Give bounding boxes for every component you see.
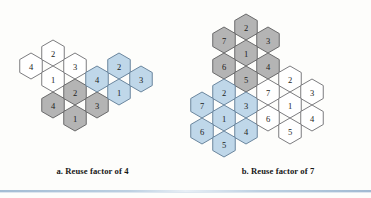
hex-cell[interactable] <box>235 118 258 144</box>
hex-cell[interactable] <box>86 92 109 118</box>
hex-cell[interactable] <box>108 53 131 79</box>
panel-reuse-4: 421342134213 a. Reuse factor of 4 <box>0 0 185 198</box>
hex-cell[interactable] <box>213 131 236 157</box>
hex-cell[interactable] <box>213 105 236 131</box>
hex-cell[interactable] <box>191 118 214 144</box>
hex-grid-reuse-7: 273164527316452731645 <box>185 0 371 165</box>
hex-cell[interactable] <box>86 66 109 92</box>
hex-cell[interactable] <box>257 53 280 79</box>
hex-cell[interactable] <box>191 92 214 118</box>
hex-cell[interactable] <box>42 92 65 118</box>
hex-cell[interactable] <box>64 79 87 105</box>
hex-cell[interactable] <box>64 53 87 79</box>
caption-reuse-4: a. Reuse factor of 4 <box>0 166 185 176</box>
hex-cell[interactable] <box>301 79 324 105</box>
hex-grid-reuse-4: 421342134213 <box>0 0 185 165</box>
hex-cell[interactable] <box>64 105 87 131</box>
figure-root: 421342134213 a. Reuse factor of 4 273164… <box>0 0 371 198</box>
hex-cell[interactable] <box>257 79 280 105</box>
hex-cell[interactable] <box>279 92 302 118</box>
hex-cell[interactable] <box>42 40 65 66</box>
hex-cell[interactable] <box>235 40 258 66</box>
hex-cell[interactable] <box>279 66 302 92</box>
caption-reuse-7: b. Reuse factor of 7 <box>185 166 371 176</box>
bottom-divider-rule-shadow <box>0 192 371 193</box>
hex-cell[interactable] <box>257 105 280 131</box>
hex-cell[interactable] <box>213 27 236 53</box>
hex-cell[interactable] <box>301 105 324 131</box>
hex-cell[interactable] <box>235 92 258 118</box>
hex-cell[interactable] <box>20 53 43 79</box>
hex-cell[interactable] <box>235 14 258 40</box>
hex-cell[interactable] <box>257 27 280 53</box>
hex-cell[interactable] <box>279 118 302 144</box>
hex-cell[interactable] <box>213 79 236 105</box>
hex-cell[interactable] <box>130 66 153 92</box>
hex-cell[interactable] <box>42 66 65 92</box>
hex-cell[interactable] <box>213 53 236 79</box>
hex-cell[interactable] <box>108 79 131 105</box>
panel-reuse-7: 273164527316452731645 b. Reuse factor of… <box>185 0 371 198</box>
hex-cell[interactable] <box>235 66 258 92</box>
